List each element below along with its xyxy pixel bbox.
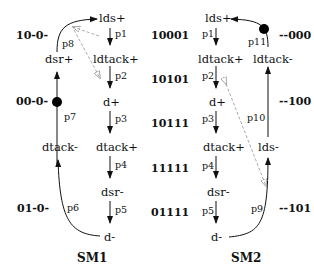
sm2-place-p3: p3 — [202, 113, 214, 125]
sm2-place-p5: p5 — [202, 205, 214, 217]
sm2-code-left-1: 10101 — [151, 74, 189, 86]
sm1-place-p1: p1 — [115, 28, 127, 40]
sm1-place-p2: p2 — [115, 70, 127, 82]
sm2-place-p10: p10 — [247, 112, 265, 124]
sm1-node-ldtack-plus: ldtack+ — [93, 53, 139, 65]
sm2-node-d-plus: d+ — [209, 96, 226, 108]
sm2-code-left-2: 10111 — [151, 118, 189, 130]
sm1-title: SM1 — [77, 252, 107, 264]
sm2-place-p1: p1 — [202, 28, 214, 40]
sm1-code-1: 00-0- — [16, 96, 48, 108]
sm1-node-dsr-minus: dsr- — [101, 186, 124, 198]
sm2-title: SM2 — [231, 252, 261, 264]
sm2-dashed-arc — [226, 84, 266, 186]
sm2-code-left-4: 01111 — [151, 207, 189, 219]
sm2-node-ldtack-plus: ldtack+ — [198, 53, 244, 65]
sm2-code-right-1: --100 — [279, 96, 311, 108]
sm1-place-p8: p8 — [62, 38, 74, 50]
sm2-arc-p9 — [229, 158, 268, 237]
sm2-code-left-3: 11111 — [151, 163, 189, 175]
sm1-node-lds-plus: lds+ — [99, 12, 126, 24]
sm2-code-left-0: 10001 — [151, 30, 189, 42]
sm2-node-dsr-minus: dsr- — [207, 186, 230, 198]
sm2-node-lds-minus: lds- — [258, 141, 279, 153]
sm2-node-ldtack-minus: ldtack- — [253, 53, 293, 65]
sm2-code-right-2: --101 — [279, 203, 311, 215]
sm1-code-0: 10-0- — [16, 30, 48, 42]
sm1-arc-p6 — [58, 160, 100, 236]
sm2-place-p4: p4 — [202, 160, 214, 172]
sm2-code-right-0: --000 — [279, 30, 311, 42]
sm2-node-dtack-plus: dtack+ — [203, 141, 245, 153]
sm1-place-p5: p5 — [115, 204, 127, 216]
sm1-node-d-plus: d+ — [103, 96, 120, 108]
sm1-node-dsr-plus: dsr+ — [45, 53, 73, 65]
sm2-node-d-minus: d- — [211, 231, 222, 243]
sm1-code-2: 01-0- — [17, 203, 49, 215]
sm1-node-dtack-minus: dtack- — [42, 141, 78, 153]
sm1-place-p3: p3 — [115, 113, 127, 125]
sm1-node-dtack-plus: dtack+ — [96, 141, 138, 153]
sm2-place-p9: p9 — [251, 203, 263, 215]
sm1-place-p7: p7 — [64, 111, 76, 123]
sm2-place-p11: p11 — [248, 36, 266, 48]
sm2-node-lds-plus: lds+ — [205, 12, 232, 24]
sm1-node-d-minus: d- — [104, 231, 115, 243]
sm1-place-p4: p4 — [115, 159, 127, 171]
sm2-place-p2: p2 — [202, 70, 214, 82]
sm1-token — [52, 97, 62, 107]
sm2-token — [259, 24, 269, 34]
sm1-place-p6: p6 — [67, 202, 79, 214]
